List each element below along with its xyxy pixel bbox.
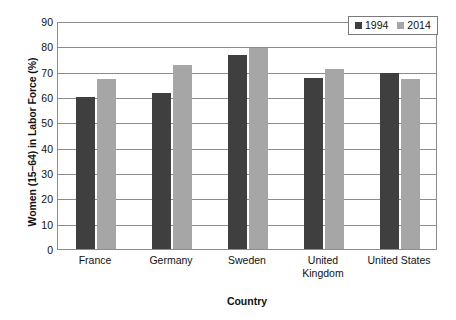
y-axis-tick-labels: 0102030405060708090 [27,0,53,320]
bar-group [210,23,286,249]
y-axis-tick-label: 20 [29,194,53,205]
x-axis-tick-label-line: France [57,254,133,267]
bar [401,79,420,249]
y-axis-tick-label: 10 [29,220,53,231]
bar [76,97,95,249]
x-axis-tick-label: United States [361,254,437,267]
y-axis-tick-label: 80 [29,42,53,53]
legend-entry: 1994 [355,20,388,31]
bar-group [134,23,210,249]
legend-label: 2014 [407,20,430,31]
bar [152,93,171,249]
y-axis-tick-label: 90 [29,17,53,28]
x-axis-tick-label: Germany [133,254,209,267]
legend-label: 1994 [365,20,388,31]
x-axis-tick-labels: FranceGermanySwedenUnitedKingdomUnited S… [57,254,437,294]
x-axis-tick-label: UnitedKingdom [285,254,361,280]
bar [228,55,247,249]
bar [249,48,268,249]
chart-legend: 19942014 [348,16,438,35]
bar [380,73,399,249]
legend-swatch-icon [397,22,404,29]
x-axis-tick-label-line: Sweden [209,254,285,267]
bar [97,79,116,249]
plot-area [57,22,437,250]
x-axis-title: Country [57,295,437,307]
y-axis-tick-label: 30 [29,169,53,180]
x-axis-tick-label-line: United States [361,254,437,267]
y-axis-tick-label: 50 [29,118,53,129]
x-axis-tick-label-line: United [285,254,361,267]
bar [325,69,344,249]
bar-series-container [58,23,436,249]
x-axis-tick-label: France [57,254,133,267]
legend-swatch-icon [355,22,362,29]
bar-group [58,23,134,249]
bar-chart-figure: Women (15–64) in Labor Force (%) 0102030… [0,0,456,320]
bar [304,78,323,249]
x-axis-tick-label: Sweden [209,254,285,267]
y-axis-tick-label: 60 [29,93,53,104]
x-axis-tick-label-line: Germany [133,254,209,267]
y-axis-tick-label: 0 [29,245,53,256]
y-axis-tick-label: 70 [29,68,53,79]
y-axis-tick-label: 40 [29,144,53,155]
x-axis-tick-label-line: Kingdom [285,267,361,280]
legend-entry: 2014 [397,20,430,31]
bar-group [362,23,438,249]
bar [173,65,192,249]
bar-group [286,23,362,249]
